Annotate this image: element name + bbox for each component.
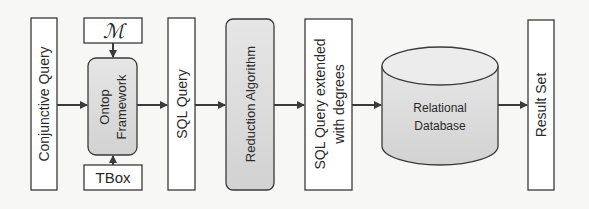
sql-extended-label-line2: with degrees	[331, 64, 347, 144]
conjunctive-query-label: Conjunctive Query	[36, 46, 52, 161]
sql-extended-label-line1: SQL Query extended	[312, 38, 328, 169]
reduction-algorithm-label: Reduction Algorithm	[243, 46, 258, 162]
mapping-label: ℳ	[103, 19, 127, 43]
sql-query-box: SQL Query	[168, 18, 195, 190]
result-set-box: Result Set	[528, 20, 554, 190]
relational-database-cylinder: Relational Database	[382, 47, 498, 165]
database-label-line1: Relational	[413, 101, 466, 115]
ontop-label-line1: Ontop	[97, 89, 112, 124]
result-set-label: Result Set	[533, 73, 549, 138]
tbox-box: TBox	[84, 165, 142, 190]
conjunctive-query-box: Conjunctive Query	[31, 18, 57, 190]
pipeline-diagram: Conjunctive Query ℳ Ontop Framework TBox…	[0, 0, 589, 209]
database-label-line2: Database	[414, 119, 466, 133]
reduction-algorithm-box: Reduction Algorithm	[226, 19, 274, 190]
sql-query-extended-box: SQL Query extended with degrees	[305, 19, 352, 190]
tbox-label: TBox	[95, 169, 131, 186]
ontop-framework-box: Ontop Framework	[88, 58, 137, 155]
ontop-label-line2: Framework	[114, 74, 129, 140]
mapping-box: ℳ	[84, 18, 142, 43]
sql-query-label: SQL Query	[174, 69, 190, 139]
